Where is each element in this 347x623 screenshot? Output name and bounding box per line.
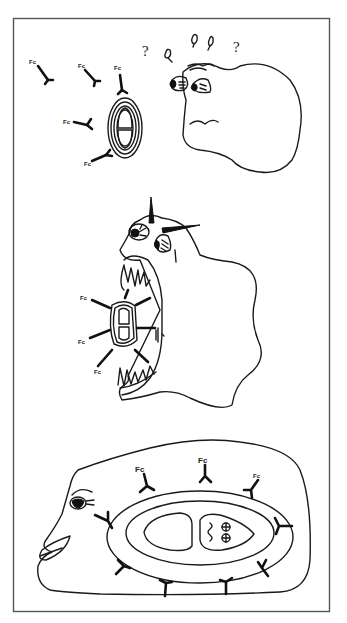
eye-left xyxy=(170,76,188,90)
question-mark: ? xyxy=(233,39,240,55)
antibody xyxy=(95,512,112,528)
fc-label: Fc xyxy=(29,59,37,65)
eye-happy xyxy=(70,490,94,509)
antibody xyxy=(258,560,268,576)
antibody xyxy=(140,474,154,492)
question-marks: ? ? xyxy=(142,35,240,63)
bound-antibody xyxy=(92,300,110,308)
nucleus-left xyxy=(144,513,192,551)
squiggle xyxy=(208,523,212,541)
bound-antibody xyxy=(125,290,128,298)
exclamation-mark xyxy=(192,35,197,48)
fc-label: Fc xyxy=(94,369,102,375)
antibody-5: Fc xyxy=(84,150,112,167)
exclamation-mark xyxy=(165,49,172,62)
bound-antibody xyxy=(90,330,110,338)
bound-antibody xyxy=(136,298,150,305)
panel-2-engulfment: Fc Fc Fc xyxy=(78,197,261,407)
antibody xyxy=(160,580,172,596)
frame-border xyxy=(14,19,330,612)
antibody-2: Fc xyxy=(78,63,100,86)
antibody-4: Fc xyxy=(63,119,92,129)
spike xyxy=(162,225,200,233)
fc-label: Fc xyxy=(63,119,71,125)
phagocyte-confused xyxy=(170,64,301,173)
antibody-3: Fc xyxy=(114,65,127,94)
phagocyte-body xyxy=(119,215,261,407)
fc-label: Fc xyxy=(253,473,261,479)
spike xyxy=(149,197,154,223)
bound-antibodies: Fc Fc Fc xyxy=(95,456,292,596)
antibody-1: Fc xyxy=(29,59,53,84)
fc-label: Fc xyxy=(78,339,86,345)
opsonization-illustration: Fc Fc Fc Fc Fc xyxy=(0,0,347,623)
bound-antibody xyxy=(98,350,112,366)
lower-teeth xyxy=(118,366,154,386)
question-mark: ? xyxy=(142,43,149,59)
panel-1-encounter: Fc Fc Fc Fc Fc xyxy=(29,35,301,173)
plus-symbols xyxy=(222,523,230,542)
antibody xyxy=(275,518,292,534)
opsonized-cell: Fc Fc Fc xyxy=(78,290,155,375)
antibody xyxy=(244,480,258,498)
fc-label: Fc xyxy=(114,65,122,71)
panel-3-digestion: Fc Fc Fc xyxy=(38,440,311,596)
eye-left-angry xyxy=(129,224,149,240)
ingested-cell xyxy=(107,491,293,583)
fc-label: Fc xyxy=(80,295,88,301)
fc-label: Fc xyxy=(84,161,92,167)
phagocyte-body xyxy=(38,440,311,595)
antibody xyxy=(200,465,211,482)
fc-label: Fc xyxy=(198,456,208,465)
motion-lines xyxy=(156,328,164,342)
brow-wrinkle xyxy=(190,68,206,70)
antibody xyxy=(220,578,232,594)
mouth-edge xyxy=(121,265,124,290)
exclamation-mark xyxy=(208,37,213,51)
mouth-wavy xyxy=(190,120,218,124)
fc-label: Fc xyxy=(135,465,145,474)
eye-right-angry xyxy=(154,235,176,262)
illustration-canvas: Fc Fc Fc Fc Fc xyxy=(0,0,347,623)
fc-label: Fc xyxy=(78,63,86,69)
eye-right xyxy=(191,79,210,93)
encapsulated-cell xyxy=(108,98,142,158)
